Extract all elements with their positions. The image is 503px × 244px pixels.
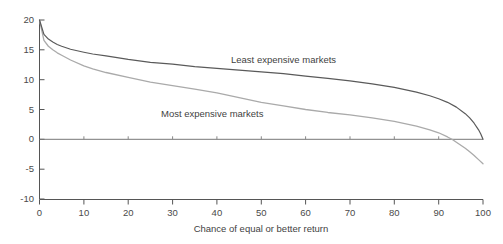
- series-most-expensive-markets-line: [40, 20, 484, 139]
- y-tick-label-neg5: -5: [12, 164, 34, 174]
- y-tick-label-20: 20: [12, 15, 34, 25]
- x-axis-ticks: [40, 200, 484, 205]
- y-tick-label-neg10: -10: [12, 194, 34, 204]
- y-tick-label-10: 10: [12, 75, 34, 85]
- y-tick-label-15: 15: [12, 45, 34, 55]
- chart-container: 20 15 10 5 0 -5 -10 0 10 20 30 40 50 60 …: [0, 0, 503, 244]
- series-label-most-expensive-markets: Most expensive markets: [161, 108, 263, 119]
- x-tick-label-10: 10: [72, 208, 96, 218]
- x-tick-label-40: 40: [205, 208, 229, 218]
- x-tick-label-50: 50: [249, 208, 273, 218]
- x-tick-label-30: 30: [161, 208, 185, 218]
- y-tick-label-0: 0: [12, 134, 34, 144]
- x-tick-label-80: 80: [382, 208, 406, 218]
- x-tick-label-20: 20: [116, 208, 140, 218]
- series-label-least-expensive-markets: Least expensive markets: [231, 54, 336, 65]
- x-axis-title: Chance of equal or better return: [181, 223, 341, 234]
- x-tick-label-100: 100: [471, 208, 495, 218]
- x-tick-label-70: 70: [338, 208, 362, 218]
- y-axis-ticks: [40, 20, 45, 199]
- x-tick-label-60: 60: [294, 208, 318, 218]
- y-tick-label-5: 5: [12, 105, 34, 115]
- x-tick-label-90: 90: [427, 208, 451, 218]
- x-tick-label-0: 0: [28, 208, 52, 218]
